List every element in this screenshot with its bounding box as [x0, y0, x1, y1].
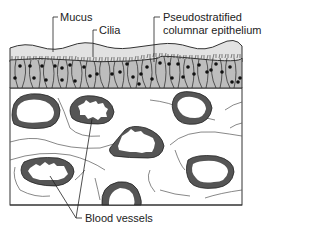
- mucus-label: Mucus: [60, 11, 92, 23]
- blood-vessels-label: Blood vessels: [85, 212, 153, 224]
- cilia-label: Cilia: [99, 24, 120, 36]
- epithelium-label-line1: Pseudostratified: [163, 11, 242, 23]
- mucus-leader: [53, 17, 58, 52]
- epithelium-label-line2: columnar epithelium: [163, 24, 261, 36]
